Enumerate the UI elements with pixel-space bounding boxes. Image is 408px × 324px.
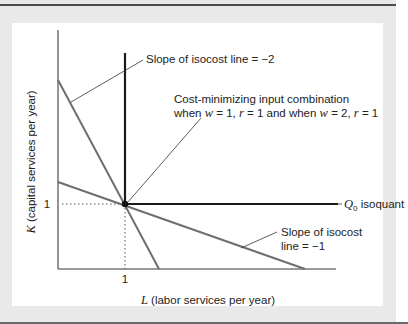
- y-tick-1: 1: [44, 198, 50, 210]
- q0-isoquant: [125, 53, 338, 204]
- cost-minimization-diagram: 1 1 L (labor services per year) K (capit…: [0, 0, 408, 324]
- y-axis-label: K (capital services per year): [24, 90, 38, 234]
- cm-text-c: = 1 and when: [244, 107, 320, 119]
- isocost-line-steep: [58, 80, 159, 269]
- isocost-line-shallow: [58, 182, 305, 269]
- leader-cost-min: [128, 118, 201, 202]
- x-tick-1: 1: [122, 273, 128, 285]
- annotation-slope-neg2: Slope of isocost line = −2: [146, 53, 275, 65]
- x-axis-label-text: (labor services per year): [148, 294, 275, 306]
- x-axis-label: L (labor services per year): [140, 293, 275, 307]
- annotation-slope-neg1-line2: line = −1: [281, 240, 325, 252]
- cm-text-d: = 2,: [328, 107, 354, 119]
- leader-slope1: [241, 232, 277, 248]
- q-var: Q: [344, 197, 353, 211]
- cm-text-a: when: [173, 107, 205, 119]
- annotation-cost-min-line1: Cost-minimizing input combination: [174, 93, 349, 105]
- leader-slope2: [71, 60, 143, 102]
- cm-text-b: = 1,: [213, 107, 239, 119]
- optimal-point: [122, 201, 128, 207]
- x-axis-var: L: [140, 293, 148, 307]
- annotation-q0-isoquant: Q0 isoquant: [344, 197, 405, 213]
- cm-text-e: = 1: [359, 107, 379, 119]
- q-text: isoquant: [357, 198, 404, 210]
- y-axis-label-text: (capital services per year): [25, 90, 37, 225]
- annotation-cost-min-line2: when w = 1, r = 1 and when w = 2, r = 1: [173, 106, 378, 120]
- annotation-slope-neg1-line1: Slope of isocost: [281, 226, 363, 238]
